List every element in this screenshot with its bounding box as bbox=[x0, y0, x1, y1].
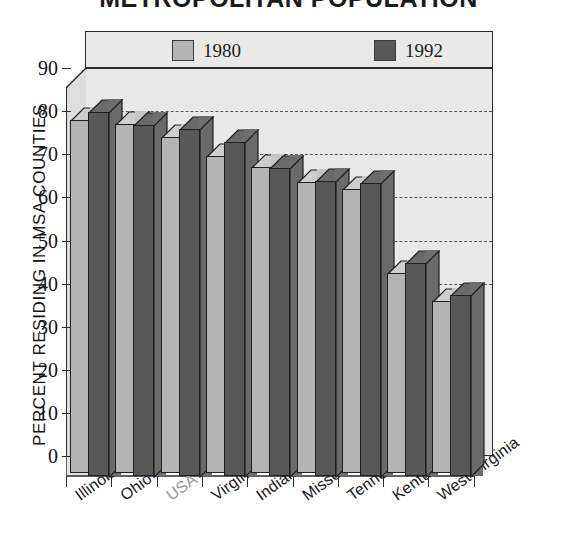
bar-tennessee-1992-front-face bbox=[360, 183, 381, 476]
y-tick-label-20: 20 bbox=[18, 360, 58, 380]
legend-entry-1980: 1980 bbox=[172, 39, 241, 61]
bar-ohio-1992-front-face bbox=[133, 125, 154, 476]
legend-entry-1992: 1992 bbox=[374, 39, 443, 61]
bar-missouri-1992-front-face bbox=[315, 181, 336, 476]
y-tick-label-60: 60 bbox=[18, 187, 58, 207]
y-tick-label-90: 90 bbox=[18, 58, 58, 78]
legend: 1980 1992 bbox=[85, 31, 493, 68]
y-tick-label-0: 0 bbox=[18, 446, 58, 466]
y-tick-label-30: 30 bbox=[18, 317, 58, 337]
y-tick-label-70: 70 bbox=[18, 144, 58, 164]
chart-title: METROPOLITAN POPULATION bbox=[0, 0, 577, 13]
chart-figure: METROPOLITAN POPULATION 1980 1992 PERCEN… bbox=[0, 0, 577, 548]
bar-west-virginia-1992-side-face bbox=[470, 282, 483, 476]
y-tick-label-10: 10 bbox=[18, 403, 58, 423]
bar-illinois-1992-front-face bbox=[88, 112, 109, 476]
legend-swatch-1980 bbox=[172, 40, 194, 61]
legend-swatch-1992 bbox=[374, 40, 396, 61]
bar-usa-1992-front-face bbox=[179, 129, 200, 476]
y-tick-mark-90 bbox=[62, 68, 71, 69]
y-tick-label-80: 80 bbox=[18, 101, 58, 121]
y-tick-label-40: 40 bbox=[18, 274, 58, 294]
bar-kentucky-1992-front-face bbox=[405, 263, 426, 476]
bar-indiana-1992-front-face bbox=[269, 168, 290, 476]
bar-virginia-1992-front-face bbox=[224, 142, 245, 476]
legend-label-1980: 1980 bbox=[203, 41, 241, 60]
x-tick-mark-0 bbox=[66, 476, 67, 487]
wall-top-diagonal bbox=[66, 68, 86, 88]
bar-west-virginia-1992-front-face bbox=[450, 295, 471, 476]
legend-label-1992: 1992 bbox=[405, 41, 443, 60]
y-tick-label-50: 50 bbox=[18, 231, 58, 251]
